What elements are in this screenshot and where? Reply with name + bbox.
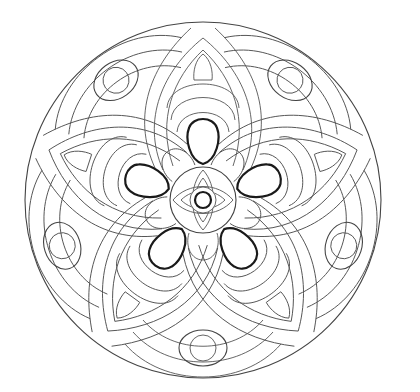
center-medallion bbox=[170, 167, 236, 233]
petal-top bbox=[145, 28, 262, 170]
ornament-circle bbox=[38, 217, 87, 274]
ornament-circle bbox=[319, 217, 368, 274]
mandala-canvas: Mandala coloring page line art bbox=[0, 0, 420, 392]
mandala-drawing bbox=[0, 0, 420, 392]
mandala-body bbox=[11, 11, 396, 377]
ornament-circle bbox=[179, 330, 227, 366]
